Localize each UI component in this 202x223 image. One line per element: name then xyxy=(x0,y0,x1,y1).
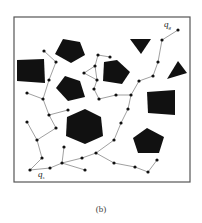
tree-node xyxy=(156,60,159,63)
tree-node xyxy=(60,161,63,164)
tree-node xyxy=(129,93,132,96)
tree-node xyxy=(47,113,50,116)
tree-node xyxy=(54,60,57,63)
start-node xyxy=(28,168,31,171)
tree-node xyxy=(146,170,149,173)
tree-node xyxy=(25,91,28,94)
tree-node xyxy=(25,120,28,123)
tree-node xyxy=(126,107,129,110)
tree-node xyxy=(47,78,50,81)
tree-node xyxy=(40,156,43,159)
tree-node xyxy=(108,55,111,58)
tree-node xyxy=(112,161,115,164)
tree-node xyxy=(160,38,163,41)
tree-node xyxy=(95,78,98,81)
tree-node xyxy=(97,97,100,100)
tree-node xyxy=(112,138,115,141)
tree-node xyxy=(83,168,86,171)
tree-node xyxy=(66,108,69,111)
tree-node xyxy=(54,126,57,129)
tree-node xyxy=(94,151,97,154)
tree-node xyxy=(114,93,117,96)
figure-caption: (b) xyxy=(0,204,202,214)
tree-node xyxy=(80,156,83,159)
tree-node xyxy=(151,74,154,77)
tree-node xyxy=(96,53,99,56)
tree-node xyxy=(137,79,140,82)
obstacle-square-right xyxy=(147,90,175,115)
tree-node xyxy=(119,121,122,124)
goal-node xyxy=(176,28,179,31)
tree-node xyxy=(92,87,95,90)
tree-node xyxy=(133,165,136,168)
tree-node xyxy=(82,71,85,74)
tree-node xyxy=(35,138,38,141)
tree-node xyxy=(62,145,65,148)
rrt-diagram: qs qg xyxy=(0,0,202,223)
tree-node xyxy=(48,166,51,169)
tree-node xyxy=(93,64,96,67)
tree-node xyxy=(41,97,44,100)
obstacle-square-left xyxy=(17,59,45,83)
tree-node xyxy=(42,49,45,52)
tree-node xyxy=(155,158,158,161)
